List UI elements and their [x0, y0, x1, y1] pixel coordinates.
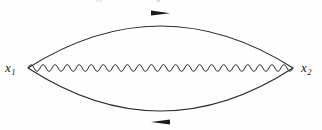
top-fermion-line — [28, 26, 293, 68]
vertex-label-x1-subscript: 1 — [11, 67, 15, 77]
diagram-canvas — [0, 0, 322, 130]
vertex-label-x1: x1 — [5, 61, 15, 74]
vertex-label-x2-symbol: x — [301, 60, 307, 75]
bottom-fermion-line — [28, 68, 293, 111]
vertex-label-x2: x2 — [301, 61, 311, 74]
vertex-label-x1-symbol: x — [5, 60, 11, 75]
top-arrow-right-icon — [151, 11, 170, 16]
feynman-diagram-figure: p k x1 x2 — [0, 0, 322, 130]
vertex-label-x2-subscript: 2 — [307, 67, 311, 77]
bottom-arrow-left-icon — [151, 119, 170, 124]
photon-propagator-line — [28, 65, 293, 72]
